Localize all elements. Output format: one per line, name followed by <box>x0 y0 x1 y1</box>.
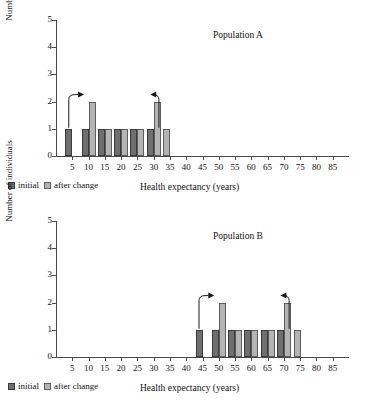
y-tick-label: 1 <box>38 124 52 133</box>
x-tick <box>105 156 106 160</box>
x-tick <box>203 357 204 361</box>
y-tick <box>52 156 56 157</box>
x-tick <box>251 357 252 361</box>
y-tick-label: 4 <box>38 42 52 51</box>
legend-swatch-initial-icon <box>8 383 15 390</box>
x-tick <box>333 156 334 160</box>
y-tick-label: 2 <box>38 298 52 307</box>
y-tick-label: 1 <box>38 325 52 334</box>
x-tick <box>154 156 155 160</box>
y-tick-label: 2 <box>38 97 52 106</box>
x-tick <box>284 156 285 160</box>
x-tick <box>121 357 122 361</box>
x-tick <box>284 357 285 361</box>
arrow-annotations-a <box>56 20 349 156</box>
transfer-arrow <box>199 293 214 329</box>
y-tick-label: 5 <box>38 15 52 24</box>
x-axis-title-a: Health expectancy (years) <box>140 182 239 192</box>
x-tick <box>72 357 73 361</box>
figure-root: Number of individuals Population A 01234… <box>0 0 375 403</box>
x-tick <box>170 156 171 160</box>
arrow-head-icon <box>280 293 286 299</box>
legend-label-initial: initial <box>18 180 39 190</box>
transfer-arrow <box>280 293 289 329</box>
legend-label-after-change: after change <box>54 180 98 190</box>
legend-item-after-change: after change <box>44 381 98 391</box>
x-tick-label: 85 <box>323 162 343 172</box>
chart-panel-population-a: Number of individuals Population A 01234… <box>0 0 375 201</box>
x-tick <box>170 357 171 361</box>
x-tick <box>154 357 155 361</box>
x-tick <box>268 357 269 361</box>
y-tick-label: 3 <box>38 69 52 78</box>
x-tick <box>203 156 204 160</box>
x-tick <box>268 156 269 160</box>
x-tick-label: 85 <box>323 363 343 373</box>
y-tick-label: 5 <box>38 216 52 225</box>
x-tick <box>121 156 122 160</box>
plot-area-b: 012345 510152025303540455055606570758085 <box>56 221 349 357</box>
x-tick <box>137 357 138 361</box>
x-tick <box>300 357 301 361</box>
arrow-annotations-b <box>56 221 349 357</box>
arrow-head-icon <box>208 293 214 299</box>
y-tick-label: 0 <box>38 151 52 160</box>
x-tick <box>186 156 187 160</box>
x-tick <box>105 357 106 361</box>
y-axis-title: Number of individuals <box>4 0 14 30</box>
x-axis-title-b: Health expectancy (years) <box>140 383 239 393</box>
x-tick <box>89 357 90 361</box>
x-tick <box>235 357 236 361</box>
legend-label-after-change: after change <box>54 381 98 391</box>
y-tick-label: 4 <box>38 243 52 252</box>
x-tick <box>316 357 317 361</box>
x-tick <box>72 156 73 160</box>
x-tick <box>251 156 252 160</box>
y-tick <box>52 357 56 358</box>
transfer-arrow <box>69 92 84 128</box>
y-tick-label: 3 <box>38 270 52 279</box>
legend-swatch-after-change-icon <box>44 383 51 390</box>
arrow-head-icon <box>150 92 156 98</box>
legend-a: initial after change <box>8 180 98 190</box>
x-tick <box>300 156 301 160</box>
x-tick <box>333 357 334 361</box>
legend-swatch-after-change-icon <box>44 182 51 189</box>
chart-panel-population-b: Number of individuals Population B 01234… <box>0 201 375 402</box>
x-tick <box>316 156 317 160</box>
plot-area-a: 012345 510152025303540455055606570758085 <box>56 20 349 156</box>
legend-item-after-change: after change <box>44 180 98 190</box>
transfer-arrow <box>150 92 159 128</box>
legend-label-initial: initial <box>18 381 39 391</box>
legend-b: initial after change <box>8 381 98 391</box>
x-tick <box>235 156 236 160</box>
x-tick <box>219 357 220 361</box>
legend-item-initial: initial <box>8 381 39 391</box>
x-tick <box>186 357 187 361</box>
x-tick <box>219 156 220 160</box>
y-axis-title: Number of individuals <box>4 131 14 231</box>
arrow-head-icon <box>78 92 84 98</box>
x-tick <box>89 156 90 160</box>
y-tick-label: 0 <box>38 352 52 361</box>
x-tick <box>137 156 138 160</box>
